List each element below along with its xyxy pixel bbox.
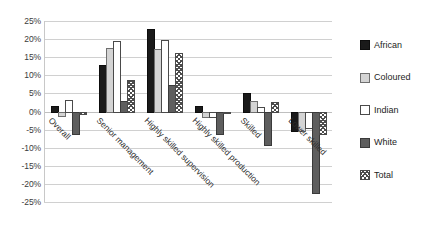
bar-total — [127, 80, 135, 114]
plot-area — [44, 21, 332, 202]
legend-label: White — [374, 138, 397, 147]
y-tick-label: -20% — [3, 180, 41, 189]
legend-item: Indian — [360, 103, 444, 117]
bar-total — [319, 112, 327, 136]
legend-swatch-total — [360, 170, 370, 180]
bar-group — [92, 21, 140, 202]
legend-swatch-indian — [360, 105, 370, 115]
gridline — [44, 202, 332, 203]
legend-swatch-coloured — [360, 73, 370, 83]
legend-label: African — [374, 41, 402, 50]
legend-swatch-white — [360, 138, 370, 148]
y-tick-label: 15% — [3, 53, 41, 62]
bar-total — [79, 112, 87, 115]
legend-item: African — [360, 38, 444, 52]
bar-total — [223, 112, 231, 115]
y-tick-label: 5% — [3, 89, 41, 98]
y-tick-label: 0% — [3, 107, 41, 116]
chart-legend: AfricanColouredIndianWhiteTotal — [360, 38, 444, 201]
legend-item: Coloured — [360, 71, 444, 85]
bar-chart: 25%20%15%10%5%0%-5%-10%-15%-20%-25% Over… — [0, 0, 446, 226]
y-tick-label: -15% — [3, 162, 41, 171]
bar-total — [271, 102, 279, 113]
y-tick-label: 25% — [3, 17, 41, 26]
legend-item: White — [360, 136, 444, 150]
bar-group — [44, 21, 92, 202]
bar-total — [175, 53, 183, 113]
legend-label: Coloured — [374, 73, 411, 82]
legend-label: Indian — [374, 106, 399, 115]
legend-swatch-african — [360, 40, 370, 50]
bar-white — [264, 112, 272, 147]
y-tick-label: -5% — [3, 125, 41, 134]
bar-white — [72, 112, 80, 136]
y-axis-labels: 25%20%15%10%5%0%-5%-10%-15%-20%-25% — [0, 21, 41, 202]
y-tick-label: -25% — [3, 198, 41, 207]
legend-label: Total — [374, 171, 393, 180]
bar-group — [284, 21, 332, 202]
bar-white — [216, 112, 224, 136]
y-tick-label: -10% — [3, 143, 41, 152]
legend-item: Total — [360, 168, 444, 182]
y-tick-label: 10% — [3, 71, 41, 80]
y-tick-label: 20% — [3, 35, 41, 44]
